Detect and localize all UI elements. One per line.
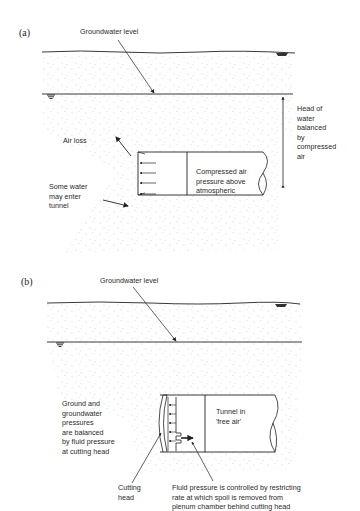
tunnel-a-label: Compressed air pressure above atmospheri… — [196, 167, 247, 196]
pressure-balance-label: Ground and groundwater pressures are bal… — [62, 399, 115, 457]
fluid-pressure-label: Fluid pressure is controlled by restrict… — [172, 483, 301, 511]
groundwater-level-label-a: Groundwater level — [80, 27, 138, 37]
panel-a — [42, 40, 295, 252]
surface-hatch-icon — [276, 53, 288, 56]
panel-a-label: (a) — [19, 27, 30, 38]
cutting-head-label: Cutting head — [118, 483, 141, 502]
ground-surface-a — [42, 51, 295, 53]
soil-stipple-a — [42, 54, 292, 132]
soil-stipple-b — [47, 304, 302, 344]
head-of-water-label: Head of water balanced by compressed air — [297, 104, 336, 162]
water-enter-label: Some water may enter tunnel — [49, 182, 87, 211]
diagram-canvas — [0, 0, 360, 511]
surface-hatch-icon-b — [275, 304, 287, 307]
groundwater-level-label-b: Groundwater level — [100, 276, 158, 286]
ground-surface-b — [47, 302, 300, 304]
tunnel-b-label: Tunnel in 'free air' — [216, 407, 245, 426]
panel-b-label: (b) — [21, 276, 33, 287]
air-loss-label: Air loss — [63, 136, 87, 146]
